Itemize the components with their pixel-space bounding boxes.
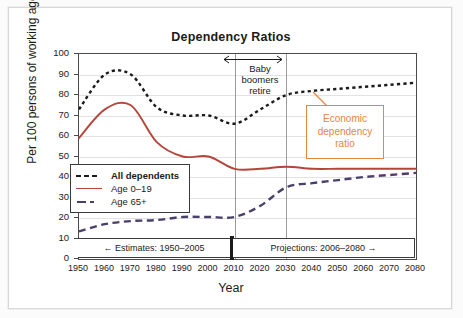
baby-boomers-retire-annotation: Baby boomers retire	[234, 63, 286, 96]
y-tick-label: 0	[41, 253, 69, 263]
legend-swatch-dashed-icon	[76, 197, 106, 207]
y-tick-label: 30	[41, 192, 69, 202]
bb-line-2: boomers	[234, 74, 286, 85]
legend-item-age-65-plus: Age 65+	[76, 195, 184, 208]
economic-dependency-ratio-callout: Economic dependency ratio	[306, 105, 384, 159]
legend-swatch-solid-icon	[76, 184, 106, 194]
projections-range-box: Projections: 2006–2080 →	[233, 238, 415, 258]
legend-label-age-0-19: Age 0–19	[111, 183, 152, 194]
econ-line-2: dependency	[318, 126, 373, 139]
bb-line-1: Baby	[234, 63, 286, 74]
y-tick-label: 40	[41, 171, 69, 181]
estimates-range-box: ← Estimates: 1950–2005	[78, 238, 231, 258]
econ-line-3: ratio	[318, 138, 373, 151]
bb-line-3: retire	[234, 85, 286, 96]
y-tick-label: 70	[41, 110, 69, 120]
page-title: Dependency Ratios	[9, 30, 453, 44]
y-tick-label: 90	[41, 69, 69, 79]
y-tick-label: 50	[41, 151, 69, 161]
chart-legend: All dependents Age 0–19 Age 65+	[70, 164, 190, 213]
y-tick-label: 20	[41, 212, 69, 222]
legend-item-all-dependents: All dependents	[76, 169, 184, 182]
y-axis-label: Per 100 persons of working age	[25, 0, 39, 184]
y-tick-label: 60	[41, 130, 69, 140]
chart-figure: Dependency Ratios Per 100 persons of wor…	[0, 0, 463, 318]
legend-item-age-0-19: Age 0–19	[76, 182, 184, 195]
chart-frame: Dependency Ratios Per 100 persons of wor…	[8, 7, 452, 309]
y-tick-label: 80	[41, 89, 69, 99]
legend-swatch-dotted-icon	[76, 171, 106, 181]
x-tick-label: 2080	[398, 263, 432, 273]
estimates-range-label: ← Estimates: 1950–2005	[103, 243, 204, 253]
x-axis-label: Year	[9, 281, 453, 295]
econ-line-1: Economic	[318, 113, 373, 126]
projections-range-label: Projections: 2006–2080 →	[270, 243, 376, 253]
y-tick-label: 100	[41, 48, 69, 58]
legend-label-all-dependents: All dependents	[111, 170, 179, 181]
y-tick-label: 10	[41, 233, 69, 243]
legend-label-age-65-plus: Age 65+	[111, 196, 147, 207]
